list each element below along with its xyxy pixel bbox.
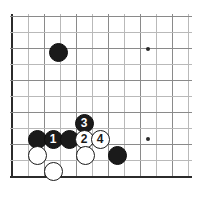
grid-line-horizontal-2 [10,48,192,49]
goban-grid [0,0,215,197]
stone-move-number: 1 [50,133,57,145]
stone-move-number: 4 [97,133,104,145]
grid-line-horizontal-4 [10,80,192,81]
white-stone-bottom[interactable] [44,162,63,181]
stone-move-number: 3 [81,117,88,129]
grid-line-horizontal-10 [10,176,192,178]
grid-line-horizontal-1 [10,32,192,33]
hoshi-upper-right-star-point [146,47,150,51]
white-stone-lower-left[interactable] [28,146,47,165]
white-stone-move-4[interactable]: 4 [91,130,110,149]
white-stone-lower-center[interactable] [76,146,95,165]
go-board-diagram: 1324 [0,0,215,197]
hoshi-lower-right-star-point [146,137,150,141]
grid-line-horizontal-7 [10,128,192,129]
black-stone-upper-left[interactable] [49,43,68,62]
black-stone-lower-right[interactable] [108,146,127,165]
grid-line-horizontal-5 [10,96,192,97]
stone-move-number: 2 [81,133,88,145]
grid-line-horizontal-3 [10,64,192,65]
grid-line-horizontal-6 [10,112,192,113]
grid-line-horizontal-0 [10,16,192,17]
